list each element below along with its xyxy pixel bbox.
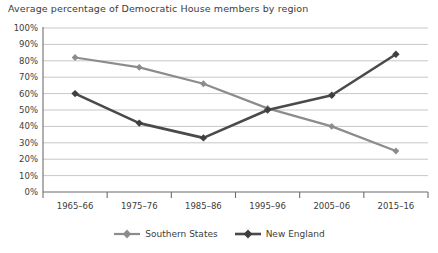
x-axis-tick-label: 2005–06 [313, 201, 350, 211]
x-axis-tick-label: 1985–86 [185, 201, 222, 211]
y-axis-tick-label: 70% [0, 72, 38, 82]
chart-legend: Southern States New England [0, 228, 438, 240]
x-axis-tick-label: 1995–96 [249, 201, 286, 211]
y-axis-tick-label: 100% [0, 23, 38, 33]
y-axis-tick-label: 60% [0, 89, 38, 99]
y-axis-tick-label: 10% [0, 171, 38, 181]
y-axis-tick-label: 50% [0, 105, 38, 115]
y-axis-tick-label: 30% [0, 138, 38, 148]
y-axis-tick-label: 40% [0, 121, 38, 131]
y-axis-tick-label: 80% [0, 56, 38, 66]
legend-item-southern-states[interactable]: Southern States [113, 228, 217, 240]
chart-container: Average percentage of Democratic House m… [0, 0, 438, 253]
legend-marker-icon [234, 228, 262, 240]
series-southern-states [72, 54, 400, 154]
y-axis-tick-label: 0% [0, 187, 38, 197]
y-axis-tick-label: 20% [0, 154, 38, 164]
y-axis-tick-label: 90% [0, 39, 38, 49]
x-axis-tick-label: 1975–76 [121, 201, 158, 211]
line-chart-svg [0, 0, 438, 253]
legend-label: New England [266, 229, 325, 239]
legend-item-new-england[interactable]: New England [234, 228, 325, 240]
legend-marker-icon [113, 228, 141, 240]
legend-label: Southern States [145, 229, 217, 239]
plot-area: 0%10%20%30%40%50%60%70%80%90%100%1965–66… [0, 0, 438, 253]
x-axis-tick-label: 1965–66 [57, 201, 94, 211]
x-axis-tick-label: 2015–16 [378, 201, 415, 211]
